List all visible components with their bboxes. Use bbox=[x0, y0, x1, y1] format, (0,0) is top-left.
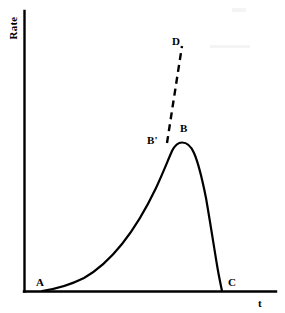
point-label-c: C bbox=[228, 277, 236, 288]
point-label-b-prime: B' bbox=[147, 135, 158, 146]
x-axis-label: t bbox=[258, 297, 262, 309]
y-axis-label: Rate bbox=[7, 6, 19, 50]
rate-vs-time-figure: Rate t A B' B C D bbox=[0, 0, 285, 313]
point-label-d: D bbox=[172, 36, 180, 47]
plot-canvas bbox=[0, 0, 285, 313]
point-label-b: B bbox=[180, 123, 188, 134]
point-label-a: A bbox=[36, 277, 44, 288]
rate-curve bbox=[42, 143, 222, 292]
